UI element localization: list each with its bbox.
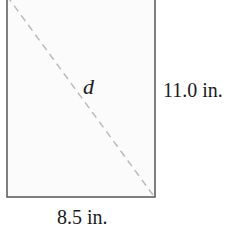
rectangle-diagram xyxy=(0,0,232,228)
width-label: 8.5 in. xyxy=(57,207,108,227)
diagonal-label: d xyxy=(83,77,94,97)
height-label: 11.0 in. xyxy=(163,80,223,100)
paper-rectangle xyxy=(7,0,155,197)
